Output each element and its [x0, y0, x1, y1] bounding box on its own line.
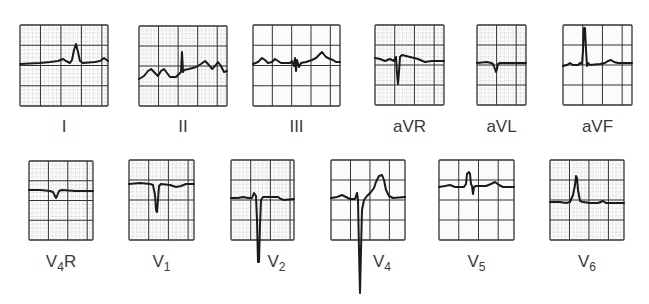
lead-panel-ii [139, 26, 227, 106]
lead-panel-avf [563, 25, 632, 105]
lead-label-v1: V1 [132, 253, 192, 273]
lead-label-v4: V4 [352, 253, 412, 273]
lead-panel-iii [253, 25, 340, 106]
lead-panel-i [20, 25, 108, 106]
lead-label-v2: V2 [247, 253, 307, 273]
lead-panel-v1 [129, 160, 194, 240]
lead-panel-v6 [550, 160, 624, 240]
lead-panel-v4 [331, 160, 405, 293]
lead-label-i: I [34, 118, 94, 135]
ecg-figure: IIIIIIaVRaVLaVFV4RV1V2V4V5V6 [0, 0, 649, 304]
lead-label-iii: III [267, 118, 327, 135]
lead-panel-avl [477, 25, 526, 105]
lead-label-avr: aVR [380, 118, 440, 135]
lead-label-v4r: V4R [31, 253, 91, 273]
lead-label-avl: aVL [472, 118, 532, 135]
lead-panel-avr [375, 25, 444, 105]
lead-panel-v5 [439, 160, 514, 240]
lead-panel-v2 [231, 160, 294, 262]
lead-label-v5: V5 [447, 253, 507, 273]
lead-label-avf: aVF [568, 118, 628, 135]
lead-panel-v4r [29, 161, 93, 240]
lead-label-ii: II [153, 118, 213, 135]
lead-label-v6: V6 [557, 253, 617, 273]
ecg-panels [0, 0, 649, 304]
